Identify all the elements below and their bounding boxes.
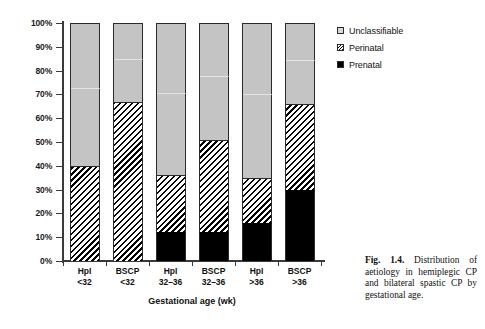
bar-segment-perinatal	[285, 104, 315, 190]
y-axis-tick	[56, 261, 63, 262]
stacked-bar	[242, 23, 272, 261]
bar-segment-prenatal	[199, 232, 229, 261]
scan-artifact	[243, 94, 273, 95]
y-axis-tick	[56, 118, 63, 119]
legend-item: Perinatal	[337, 39, 467, 56]
prenatal-swatch	[337, 61, 344, 68]
bar-segment-perinatal	[113, 102, 143, 261]
stacked-bar	[70, 23, 100, 261]
chart-legend: UnclassifiablePerinatalPrenatal	[337, 22, 467, 73]
y-axis-tick	[56, 94, 63, 95]
bar-segment-perinatal	[199, 140, 229, 233]
y-axis-tick-label: 20%	[0, 208, 52, 218]
scan-artifact	[200, 76, 230, 77]
unclassifiable-swatch	[337, 27, 344, 34]
y-axis-tick	[56, 47, 63, 48]
stacked-bar	[199, 23, 229, 261]
bar-segment-unclassifiable	[70, 23, 100, 166]
y-axis-tick	[56, 166, 63, 167]
x-axis-title: Gestational age (wk)	[63, 296, 321, 306]
bar-segment-perinatal	[156, 175, 186, 232]
y-axis-tick-label: 30%	[0, 185, 52, 195]
y-axis-tick-label: 100%	[0, 18, 52, 28]
x-axis-category-label: BSCP>36	[270, 266, 330, 287]
stacked-bar	[156, 23, 186, 261]
category-range: >36	[270, 277, 330, 288]
y-axis-tick-label: 70%	[0, 89, 52, 99]
scan-artifact	[114, 59, 144, 60]
y-axis-tick	[56, 190, 63, 191]
y-axis-tick-label: 60%	[0, 113, 52, 123]
y-axis-tick-label: 50%	[0, 137, 52, 147]
figure-number: Fig. 1.4.	[365, 255, 404, 265]
y-axis-tick	[56, 213, 63, 214]
scan-artifact	[286, 60, 316, 61]
figure-container: 0%10%20%30%40%50%60%70%80%90%100% HpI<32…	[0, 0, 485, 329]
legend-item: Unclassifiable	[337, 22, 467, 39]
category-group: BSCP	[270, 266, 330, 277]
y-axis-tick	[56, 237, 63, 238]
figure-caption: Fig. 1.4. Distribution of aetiology in h…	[365, 255, 477, 301]
legend-label: Perinatal	[349, 43, 384, 53]
bar-segment-unclassifiable	[156, 23, 186, 175]
bar-segment-unclassifiable	[199, 23, 229, 140]
bar-segment-perinatal	[242, 178, 272, 223]
bar-segment-unclassifiable	[113, 23, 143, 102]
stacked-bar	[113, 23, 143, 261]
bar-segment-prenatal	[285, 190, 315, 261]
y-axis-tick	[56, 71, 63, 72]
legend-label: Prenatal	[349, 60, 382, 70]
y-axis-tick-label: 40%	[0, 161, 52, 171]
scan-artifact	[71, 88, 101, 89]
y-axis-tick-label: 80%	[0, 66, 52, 76]
legend-label: Unclassifiable	[349, 26, 403, 36]
bar-segment-unclassifiable	[285, 23, 315, 104]
plot-area	[63, 23, 321, 261]
bar-segment-prenatal	[242, 223, 272, 261]
y-axis-tick	[56, 23, 63, 24]
y-axis-tick	[56, 142, 63, 143]
perinatal-swatch	[337, 44, 344, 51]
bar-segment-prenatal	[156, 232, 186, 261]
scan-artifact	[157, 93, 187, 94]
bar-segment-perinatal	[70, 166, 100, 261]
y-axis-tick-label: 90%	[0, 42, 52, 52]
bar-segment-unclassifiable	[242, 23, 272, 178]
stacked-bar	[285, 23, 315, 261]
legend-item: Prenatal	[337, 56, 467, 73]
y-axis-tick-label: 10%	[0, 232, 52, 242]
y-axis-tick-label: 0%	[0, 256, 52, 266]
